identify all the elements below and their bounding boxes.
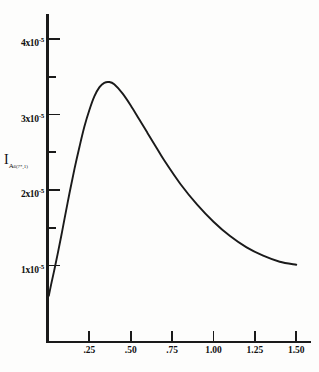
plot-figure: IA6(7*,1) 4x10-53x10-52x10-51x10-5 .25.5… — [0, 0, 319, 372]
data-curve-path — [49, 82, 296, 296]
data-curve-svg — [0, 0, 319, 372]
